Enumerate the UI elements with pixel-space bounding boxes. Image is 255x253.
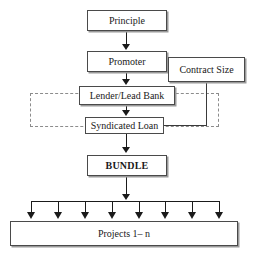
arrowhead-lender-to-syndicated-loan [122,110,130,116]
connector-contract-size-to-syndicated-loan [206,82,207,126]
node-bundle[interactable]: BUNDLE [87,155,167,176]
connector-bundle-to-fan-bar [126,176,127,195]
connector-principle-to-promoter [126,31,127,45]
node-principle-label: Principle [109,16,145,26]
node-promoter[interactable]: Promoter [87,51,167,72]
arrowhead-promoter-to-lender [122,79,130,85]
arrowhead-principle-to-promoter [122,44,130,50]
node-projects-label: Projects 1– n [98,229,150,239]
node-contract-size[interactable]: Contract Size [168,57,245,82]
node-syndicated-loan[interactable]: Syndicated Loan [85,117,164,134]
node-bundle-label: BUNDLE [106,161,149,171]
node-promoter-label: Promoter [108,57,145,67]
connector-syndicated-loan-to-bundle [126,134,127,148]
node-principle[interactable]: Principle [87,10,167,31]
fan-branch-arrowhead-5 [135,212,143,219]
fan-branch-arrowhead-8 [215,212,223,219]
fan-branch-arrowhead-4 [108,212,116,219]
node-lender-lead-bank[interactable]: Lender/Lead Bank [79,86,175,105]
fan-branch-arrowhead-1 [27,212,35,219]
connector-contract-size-to-syndicated-loan-horizontal [164,125,207,126]
fan-branch-arrowhead-7 [188,212,196,219]
node-syndicated-loan-label: Syndicated Loan [91,121,158,131]
node-lender-lead-bank-label: Lender/Lead Bank [90,91,165,101]
fan-branch-arrowhead-3 [81,212,89,219]
fan-out-bus-bar [31,201,219,202]
diagram-canvas: Principle Promoter Contract Size Lender/… [0,0,255,253]
node-contract-size-label: Contract Size [179,65,233,75]
arrowhead-syndicated-loan-to-bundle [122,147,130,153]
fan-branch-arrowhead-2 [54,212,62,219]
fan-branch-arrowhead-6 [161,212,169,219]
arrowhead-bundle-to-fan-bar [122,194,130,200]
node-projects[interactable]: Projects 1– n [10,221,238,246]
